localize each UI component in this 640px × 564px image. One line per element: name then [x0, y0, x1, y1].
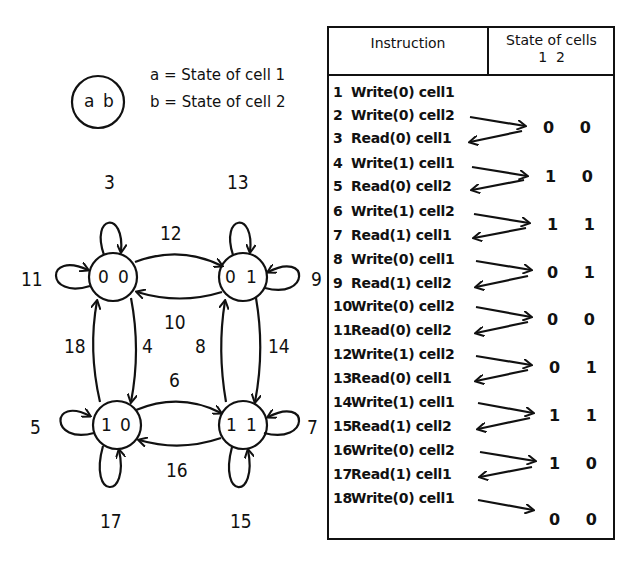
row-instruction: Read(0) cell2: [351, 178, 451, 194]
edge-14: [255, 298, 260, 402]
row-number: 5: [333, 178, 351, 194]
node-00-a: 0: [98, 267, 109, 287]
legend-line-b: b = State of cell 2: [150, 93, 285, 111]
edge-label-12: 12: [160, 222, 182, 244]
table-row: 6Write(1) cell2: [333, 203, 454, 219]
state-value: 0 0: [549, 510, 607, 529]
row-instruction: Write(0) cell2: [351, 107, 454, 123]
state-value: 1 0: [545, 167, 603, 186]
legend-node-b: b: [103, 91, 114, 111]
row-instruction: Write(0) cell1: [351, 84, 454, 100]
table-row: 1Write(0) cell1: [333, 84, 454, 100]
row-instruction: Read(0) cell1: [351, 370, 451, 386]
edge-label-4: 4: [142, 335, 153, 357]
edge-label-10: 10: [164, 311, 186, 333]
edge-label-6: 6: [169, 369, 180, 391]
loop-7: [264, 411, 299, 435]
table-row: 9Read(1) cell2: [333, 275, 451, 291]
table-row: 12Write(1) cell2: [333, 346, 454, 362]
edge-label-3: 3: [104, 171, 115, 193]
edge-label-9: 9: [311, 268, 322, 290]
row-number: 4: [333, 155, 351, 171]
state-value: 0 0: [547, 310, 605, 329]
row-instruction: Write(1) cell1: [351, 155, 454, 171]
row-number: 11: [333, 322, 351, 338]
header-instruction: Instruction: [329, 28, 489, 74]
table-header: Instruction State of cells 1 2: [329, 28, 613, 76]
state-value: 1 1: [547, 215, 605, 234]
row-instruction: Write(0) cell2: [351, 442, 454, 458]
row-number: 8: [333, 251, 351, 267]
header-state-cols: 1 2: [490, 49, 613, 66]
edge-18: [93, 301, 100, 402]
table-row: 14Write(1) cell1: [333, 394, 454, 410]
row-number: 6: [333, 203, 351, 219]
table-row: 2Write(0) cell2: [333, 107, 454, 123]
table-row: 7Read(1) cell1: [333, 227, 451, 243]
loop-3: [101, 223, 122, 255]
edge-10: [137, 292, 222, 299]
table-row: 3Read(0) cell1: [333, 130, 451, 146]
legend: a b a = State of cell 1 b = State of cel…: [72, 66, 285, 128]
node-01-a: 0: [225, 267, 236, 287]
state-value: 0 1: [547, 263, 605, 282]
edge-label-5: 5: [30, 416, 41, 438]
node-10-b: 0: [120, 415, 131, 435]
row-number: 12: [333, 346, 351, 362]
table-row: 8Write(0) cell1: [333, 251, 454, 267]
loop-17: [100, 446, 121, 487]
row-instruction: Write(0) cell1: [351, 251, 454, 267]
row-instruction: Write(1) cell1: [351, 394, 454, 410]
edge-label-13: 13: [227, 171, 249, 193]
row-number: 2: [333, 107, 351, 123]
edge-label-14: 14: [268, 335, 290, 357]
edge-label-8: 8: [195, 335, 206, 357]
state-value: 0 0: [543, 118, 601, 137]
edge-4: [131, 298, 136, 402]
row-instruction: Read(1) cell2: [351, 275, 451, 291]
edge-6: [136, 402, 221, 413]
header-state: State of cells 1 2: [490, 28, 613, 74]
row-number: 16: [333, 442, 351, 458]
legend-line-a: a = State of cell 1: [150, 66, 285, 84]
legend-node-circle: [72, 76, 124, 128]
edge-label-15: 15: [230, 510, 252, 532]
table-row: 18Write(0) cell1: [333, 490, 454, 506]
row-instruction: Read(0) cell2: [351, 322, 451, 338]
edge-12: [135, 254, 222, 266]
table-row: 15Read(1) cell2: [333, 418, 451, 434]
row-instruction: Write(1) cell2: [351, 346, 454, 362]
table-row: 5Read(0) cell2: [333, 178, 451, 194]
node-10-a: 1: [101, 415, 112, 435]
row-number: 7: [333, 227, 351, 243]
node-11-a: 1: [226, 415, 237, 435]
edge-8: [221, 301, 226, 402]
node-11-b: 1: [246, 415, 257, 435]
edge-label-11: 11: [21, 268, 43, 290]
loop-5: [60, 411, 94, 435]
state-value: 1 0: [549, 454, 607, 473]
row-instruction: Read(1) cell1: [351, 227, 451, 243]
table-row: 16Write(0) cell2: [333, 442, 454, 458]
loop-13: [230, 223, 250, 255]
row-number: 13: [333, 370, 351, 386]
row-number: 3: [333, 130, 351, 146]
node-01-b: 1: [246, 267, 257, 287]
row-number: 18: [333, 490, 351, 506]
table-row: 10Write(0) cell2: [333, 298, 454, 314]
row-number: 17: [333, 466, 351, 482]
table-row: 13Read(0) cell1: [333, 370, 451, 386]
table-row: 17Read(1) cell1: [333, 466, 451, 482]
legend-node-a: a: [84, 91, 94, 111]
row-number: 1: [333, 84, 351, 100]
table-row: 4Write(1) cell1: [333, 155, 454, 171]
row-instruction: Read(1) cell1: [351, 466, 451, 482]
state-value: 1 1: [549, 406, 607, 425]
edge-16: [139, 438, 221, 446]
row-number: 15: [333, 418, 351, 434]
row-number: 10: [333, 298, 351, 314]
row-number: 9: [333, 275, 351, 291]
edge-label-18: 18: [64, 335, 86, 357]
table-row: 11Read(0) cell2: [333, 322, 451, 338]
loop-15: [229, 447, 250, 487]
